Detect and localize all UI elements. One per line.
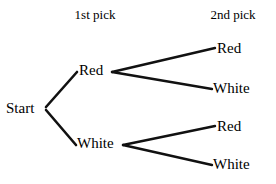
column-header-first-pick: 1st pick bbox=[52, 8, 138, 21]
node-first-pick-red: Red bbox=[79, 63, 103, 78]
column-header-second-pick: 2nd pick bbox=[190, 8, 276, 21]
node-second-pick-red-after-red: Red bbox=[217, 41, 241, 56]
edge-red-to-red bbox=[112, 48, 215, 72]
edge-start-to-red bbox=[46, 72, 77, 107]
node-second-pick-white-after-red: White bbox=[213, 81, 250, 96]
node-second-pick-white-after-white: White bbox=[213, 157, 250, 172]
edge-white-to-white bbox=[123, 145, 212, 165]
node-first-pick-white: White bbox=[77, 136, 114, 151]
edge-start-to-white bbox=[46, 110, 76, 145]
probability-tree-diagram: 1st pick 2nd pick Start Red White Red Wh… bbox=[0, 0, 276, 184]
node-start: Start bbox=[6, 101, 34, 116]
node-second-pick-red-after-white: Red bbox=[217, 119, 241, 134]
edge-red-to-white bbox=[112, 72, 212, 89]
edge-white-to-red bbox=[123, 126, 215, 145]
